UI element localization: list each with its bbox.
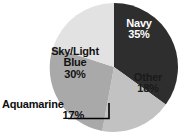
pie-chart-canvas: [0, 0, 185, 134]
pie-chart: Navy 35% Other 18% Sky/Light Blue 30% Aq…: [0, 0, 185, 134]
